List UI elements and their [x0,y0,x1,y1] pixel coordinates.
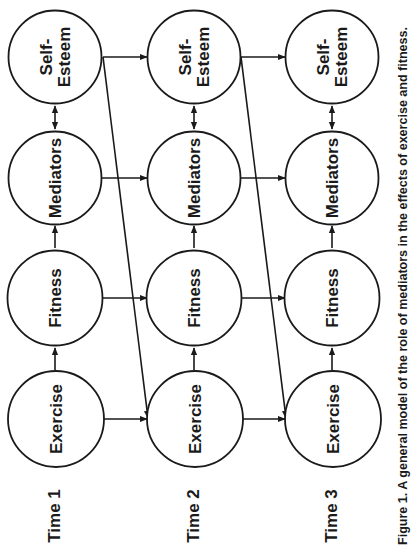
time-labels: Time 1 Time 2 Time 3 [45,489,341,543]
label-mediators-t3: Mediators [323,138,342,218]
label-selfesteem-t3-line2: Esteem [332,27,351,87]
label-selfesteem-t2-line1: Self- [176,39,195,76]
label-exercise-t2: Exercise [186,384,205,454]
edge-selfesteem-t1-to-exercise-t2 [103,57,148,418]
label-exercise-t1: Exercise [47,384,66,454]
label-mediators-t2: Mediators [185,138,204,218]
label-mediators-t1: Mediators [46,138,65,218]
figure-caption: Figure 1. A general model of the role of… [396,27,410,545]
label-fitness-t2: Fitness [185,268,204,328]
time-label-2: Time 2 [184,489,203,543]
label-selfesteem-t1-line1: Self- [37,39,56,76]
label-fitness-t3: Fitness [323,268,342,328]
label-selfesteem-t1-line2: Esteem [55,27,74,87]
label-selfesteem-t3-line1: Self- [314,39,333,76]
time-label-3: Time 3 [322,489,341,543]
time-label-1: Time 1 [45,489,64,543]
label-exercise-t3: Exercise [324,384,343,454]
mediator-model-diagram: Self- Esteem Mediators Fitness Exercise … [0,0,413,553]
label-selfesteem-t2-line2: Esteem [194,27,213,87]
edge-selfesteem-t2-to-exercise-t3 [241,57,286,418]
label-fitness-t1: Fitness [46,268,65,328]
